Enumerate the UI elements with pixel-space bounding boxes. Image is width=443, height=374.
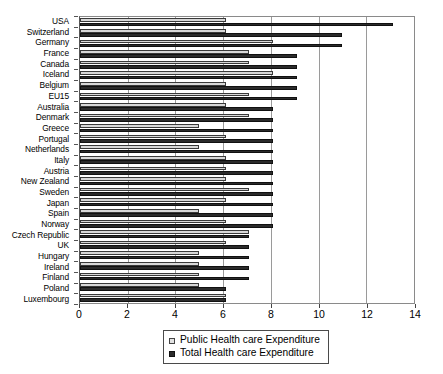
bar-total [80, 277, 249, 281]
category-label: Norway [0, 219, 74, 230]
category-tick [74, 16, 78, 17]
category-tick [74, 176, 78, 177]
bar-total [80, 54, 297, 58]
category-tick [74, 91, 78, 92]
legend-item-total: Total Health care Expenditure [169, 347, 320, 360]
category-label: Switzerland [0, 27, 74, 38]
bar-public [80, 230, 249, 234]
bar-row [80, 197, 414, 208]
bar-row [80, 49, 414, 60]
bar-total [80, 213, 273, 217]
bar-public [80, 156, 226, 160]
bar-row [80, 112, 414, 123]
bar-total [80, 23, 393, 27]
category-tick [74, 123, 78, 124]
public-swatch-icon [169, 338, 175, 344]
bar-row [80, 292, 414, 303]
bar-total [80, 44, 342, 48]
bar-total [80, 298, 226, 302]
bar-row [80, 144, 414, 155]
bar-row [80, 91, 414, 102]
bar-row [80, 229, 414, 240]
category-label: Germany [0, 37, 74, 48]
plot-wrapper: USASwitzerlandGermanyFranceCanadaIceland… [0, 0, 443, 320]
category-label: Sweden [0, 187, 74, 198]
bar-public [80, 135, 226, 139]
bar-row [80, 155, 414, 166]
bar-total [80, 182, 273, 186]
bar-public [80, 145, 199, 149]
bar-public [80, 61, 249, 65]
bar-row [80, 102, 414, 113]
bar-public [80, 82, 226, 86]
bar-total [80, 107, 273, 111]
category-tick [74, 155, 78, 156]
category-tick [74, 37, 78, 38]
bar-row [80, 208, 414, 219]
bar-total [80, 235, 249, 239]
category-tick [74, 219, 78, 220]
bar-total [80, 160, 273, 164]
category-tick [74, 133, 78, 134]
bar-public [80, 103, 226, 107]
category-label: Poland [0, 283, 74, 294]
health-expenditure-bar-chart: USASwitzerlandGermanyFranceCanadaIceland… [0, 0, 443, 374]
category-tick [74, 208, 78, 209]
bar-total [80, 33, 342, 37]
x-axis-tick-label: 12 [361, 308, 373, 320]
bar-row [80, 17, 414, 28]
category-tick [74, 80, 78, 81]
category-label: Hungary [0, 251, 74, 262]
category-label: Iceland [0, 69, 74, 80]
category-tick [74, 293, 78, 294]
category-label: France [0, 48, 74, 59]
bar-public [80, 177, 226, 181]
bar-total [80, 171, 273, 175]
bar-total [80, 86, 297, 90]
bar-row [80, 176, 414, 187]
bar-public [80, 114, 249, 118]
category-tick [74, 69, 78, 70]
bar-rows [80, 17, 414, 303]
bar-public [80, 124, 199, 128]
category-tick [74, 187, 78, 188]
bar-public [80, 40, 273, 44]
bar-total [80, 224, 273, 228]
category-tick [74, 229, 78, 230]
category-label: Italy [0, 155, 74, 166]
category-tick [74, 165, 78, 166]
bar-public [80, 241, 226, 245]
bar-row [80, 70, 414, 81]
category-label: Belgium [0, 80, 74, 91]
x-axis-tick-label: 0 [76, 308, 82, 320]
category-label: EU15 [0, 91, 74, 102]
bar-row [80, 123, 414, 134]
bar-row [80, 271, 414, 282]
category-tick [74, 112, 78, 113]
chart-legend: Public Health care Expenditure Total Hea… [163, 330, 329, 364]
bar-row [80, 38, 414, 49]
category-label: Australia [0, 101, 74, 112]
bar-total [80, 150, 273, 154]
category-label: USA [0, 16, 74, 27]
bar-row [80, 81, 414, 92]
bar-row [80, 261, 414, 272]
bar-row [80, 134, 414, 145]
category-label: Finland [0, 272, 74, 283]
category-label: Czech Republic [0, 229, 74, 240]
legend-item-public: Public Health care Expenditure [169, 334, 320, 347]
bar-public [80, 262, 199, 266]
category-label: Denmark [0, 112, 74, 123]
legend-label-total: Total Health care Expenditure [180, 348, 314, 358]
category-label: Portugal [0, 133, 74, 144]
bar-row [80, 218, 414, 229]
bar-public [80, 188, 249, 192]
total-swatch-icon [169, 351, 175, 357]
bar-total [80, 287, 226, 291]
category-tick [74, 251, 78, 252]
bar-total [80, 139, 273, 143]
bar-total [80, 65, 297, 69]
category-tick [74, 240, 78, 241]
x-axis-tick-label: 4 [172, 308, 178, 320]
category-label: New Zealand [0, 176, 74, 187]
